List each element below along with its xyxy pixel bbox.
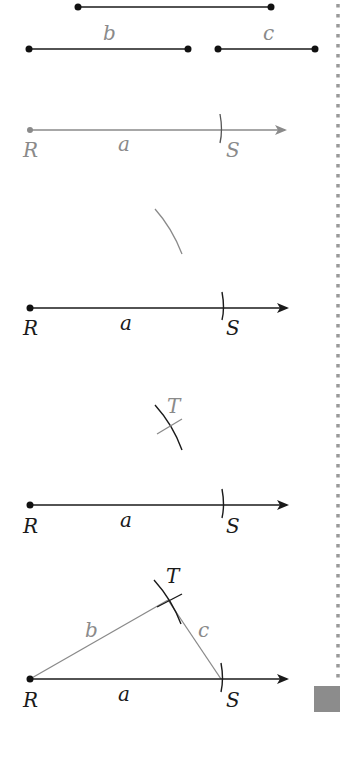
label-a: a [118,132,130,156]
point-S: S [226,514,240,538]
arc-b [155,209,182,254]
given-segment-b: b [26,21,192,53]
given-segment-c: c [215,21,319,53]
point-R: R [22,316,38,340]
point-T: T [167,394,182,418]
point-R: R [22,514,38,538]
label-c: c [263,21,274,45]
point-T: T [166,564,181,588]
point-R: R [22,688,38,712]
step-4: T b c R a S [22,564,287,712]
label-a: a [120,311,132,335]
step-3: T R a S [22,394,287,538]
point-S: S [226,316,240,340]
label-c: c [198,618,209,642]
margin-marker-square [314,686,340,712]
step-1: R a S [22,114,285,162]
point-S: S [226,138,240,162]
point-R: R [22,138,38,162]
label-a: a [118,682,130,706]
label-b: b [85,618,98,642]
construction-diagram: b c R a S R a S T R a S [0,0,347,773]
point-S: S [226,688,240,712]
label-a: a [120,508,132,532]
step-2: R a S [22,209,287,340]
side-b [30,600,168,679]
label-b: b [103,21,116,45]
given-segment-a [75,4,275,11]
